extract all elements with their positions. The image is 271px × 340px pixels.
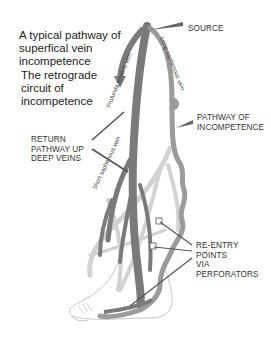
pathway-label: PATHWAY OF INCOMPETENCE	[197, 113, 264, 132]
short-saphenous-label: Short saphenous vein	[91, 135, 121, 190]
return-pointer-1	[92, 112, 124, 140]
perforator-marker-2	[150, 243, 156, 249]
source-label: SOURCE	[188, 24, 224, 34]
diagram-title: A typical pathway of superfical vein inc…	[19, 29, 121, 68]
diagram-subtitle: The retrograde circuit of incompetence	[21, 69, 97, 108]
vein-diagram: Profunda femoris vein Long saphenous vei…	[0, 0, 271, 340]
toes-lines	[78, 303, 92, 314]
reentry-points-label: RE-ENTRY POINTS VIA PERFORATORS	[196, 241, 271, 279]
return-pathway-label: RETURN PATHWAY UP DEEP VEINS	[31, 135, 84, 164]
pathway-pointer	[176, 120, 193, 128]
source-pointer	[150, 22, 183, 30]
